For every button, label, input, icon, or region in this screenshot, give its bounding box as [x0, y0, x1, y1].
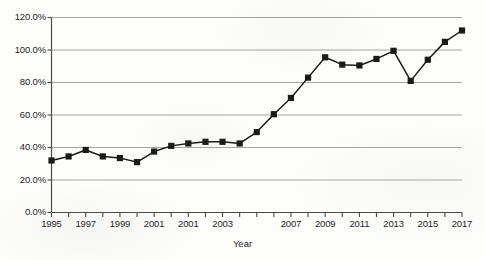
data-point-marker	[322, 54, 328, 60]
data-point-marker	[305, 75, 311, 81]
data-point-marker	[100, 153, 106, 159]
data-point-marker	[83, 147, 89, 153]
data-point-marker	[425, 57, 431, 63]
data-point-marker	[219, 139, 225, 145]
data-point-marker	[151, 148, 157, 154]
data-point-marker	[288, 95, 294, 101]
data-point-marker	[356, 62, 362, 68]
data-point-marker	[339, 62, 345, 68]
data-point-marker	[237, 140, 243, 146]
data-point-marker	[442, 39, 448, 45]
data-point-marker	[202, 139, 208, 145]
data-point-marker	[373, 56, 379, 62]
data-point-marker	[185, 140, 191, 146]
data-point-marker	[134, 159, 140, 165]
chart-figure: Year 0.0%20.0%40.0%60.0%80.0%100.0%120.0…	[0, 0, 485, 260]
data-point-marker	[48, 157, 54, 163]
data-point-marker	[408, 78, 414, 84]
data-point-marker	[254, 129, 260, 135]
line-chart-plot	[0, 0, 485, 260]
data-point-marker	[66, 153, 72, 159]
data-point-marker	[168, 143, 174, 149]
data-point-marker	[390, 48, 396, 54]
data-point-marker	[459, 27, 465, 33]
data-point-marker	[117, 155, 123, 161]
data-point-marker	[271, 111, 277, 117]
